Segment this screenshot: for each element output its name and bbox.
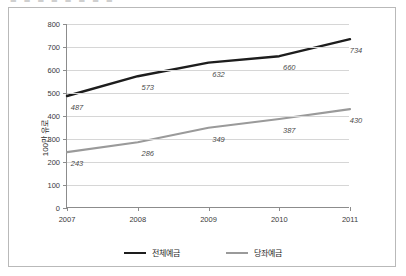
data-label: 487	[71, 102, 84, 111]
y-axis-tick	[63, 24, 67, 25]
chart-screenshot: ■ ■ ■ ■ ■ ■ ■ ■ 100만 유로 0100200300400500…	[0, 0, 406, 276]
x-axis-label: 2010	[271, 215, 288, 224]
legend-label-demand-deposits: 당좌예금	[254, 247, 282, 258]
x-axis-label: 2007	[59, 215, 76, 224]
legend-swatch-dark-icon	[124, 252, 146, 254]
x-axis-tick	[209, 207, 210, 211]
data-label: 243	[71, 159, 84, 168]
y-axis-label: 400	[47, 112, 60, 121]
gridline	[67, 93, 349, 94]
x-axis-label: 2011	[342, 215, 358, 224]
data-label: 349	[212, 134, 225, 143]
y-axis-label: 600	[47, 66, 60, 75]
y-axis-tick	[63, 70, 67, 71]
clipped-header-text: ■ ■ ■ ■ ■ ■ ■ ■	[10, 0, 115, 2]
x-axis-tick	[138, 207, 139, 211]
x-axis-tick	[67, 207, 68, 211]
x-axis-label: 2009	[200, 215, 217, 224]
x-axis-tick	[350, 207, 351, 211]
y-axis-label: 700	[47, 43, 60, 52]
data-label: 286	[141, 149, 154, 158]
data-label: 632	[212, 69, 225, 78]
y-axis-label: 100	[47, 181, 60, 190]
legend-swatch-gray-icon	[226, 252, 248, 254]
y-axis-label: 500	[47, 89, 60, 98]
y-axis-tick	[63, 162, 67, 163]
data-label: 430	[350, 116, 363, 125]
y-axis-tick	[63, 47, 67, 48]
gridline	[67, 47, 349, 48]
gridline	[67, 24, 349, 25]
y-axis-tick	[63, 185, 67, 186]
legend-item-total-deposits[interactable]: 전체예금	[124, 247, 180, 258]
y-axis-tick	[63, 139, 67, 140]
plot-area: 0100200300400500600700800200720082009201…	[66, 24, 349, 208]
legend-item-demand-deposits[interactable]: 당좌예금	[226, 247, 282, 258]
gridline	[67, 139, 349, 140]
gridline	[67, 116, 349, 117]
gridline	[67, 162, 349, 163]
legend-label-total-deposits: 전체예금	[152, 247, 180, 258]
x-axis-tick	[279, 207, 280, 211]
data-label: 660	[283, 63, 296, 72]
y-axis-label: 300	[47, 135, 60, 144]
gridline	[67, 185, 349, 186]
data-label: 387	[283, 125, 296, 134]
y-axis-tick	[63, 116, 67, 117]
y-axis-tick	[63, 93, 67, 94]
y-axis-label: 200	[47, 158, 60, 167]
x-axis-label: 2008	[129, 215, 146, 224]
y-axis-label: 0	[56, 204, 60, 213]
data-label: 573	[141, 83, 154, 92]
data-label: 734	[350, 46, 363, 55]
gridline	[67, 70, 349, 71]
y-axis-label: 800	[47, 20, 60, 29]
chart-legend: 전체예금 당좌예금	[0, 247, 406, 258]
